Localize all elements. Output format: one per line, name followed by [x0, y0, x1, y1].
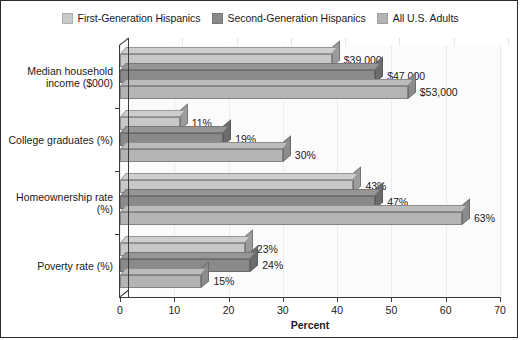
gridline-depth — [508, 38, 509, 45]
bar[interactable] — [120, 275, 201, 288]
y-axis-tick — [115, 234, 120, 235]
legend-item[interactable]: All U.S. Adults — [377, 12, 459, 24]
bar[interactable] — [120, 149, 283, 162]
category-label: Median household income ($000) — [1, 64, 113, 89]
bar[interactable] — [120, 86, 408, 99]
gridline — [446, 45, 447, 297]
bar-top-face — [120, 110, 186, 117]
bar-top-face — [120, 47, 338, 54]
bar-value-label: 24% — [262, 259, 283, 271]
plot-area: $39,000$47,000$53,00011%19%30%43%47%63%2… — [120, 45, 500, 297]
bar-value-label: 63% — [474, 212, 495, 224]
gridline-depth — [399, 38, 400, 45]
x-axis-line — [119, 297, 500, 298]
y-axis-tick — [115, 108, 120, 109]
bar-top-face — [120, 142, 289, 149]
bar-value-label: 30% — [295, 149, 316, 161]
category-label: Poverty rate (%) — [1, 259, 113, 272]
chart-container: First-Generation HispanicsSecond-Generat… — [0, 0, 518, 338]
x-axis-tick — [229, 297, 230, 302]
bar-top-face — [120, 173, 359, 180]
y-axis-back-line — [128, 38, 129, 297]
bar-top-face — [120, 63, 381, 70]
bar-top-face — [120, 189, 381, 196]
legend-item-label: Second-Generation Hispanics — [228, 12, 366, 24]
gridline-depth — [182, 38, 183, 45]
bar-front-face — [120, 149, 283, 162]
x-axis-title: Percent — [120, 319, 500, 331]
x-axis-tick — [337, 297, 338, 302]
bar-top-face — [120, 79, 414, 86]
bar[interactable] — [120, 212, 462, 225]
gridline-depth — [291, 38, 292, 45]
bar-value-label: $53,000 — [420, 86, 458, 98]
legend-item[interactable]: Second-Generation Hispanics — [212, 12, 366, 24]
bar-value-label: 23% — [257, 243, 278, 255]
bar-front-face — [120, 275, 201, 288]
x-axis-tick — [391, 297, 392, 302]
x-axis-tick-label: 50 — [386, 304, 398, 316]
bar-value-label: 15% — [213, 275, 234, 287]
bar-top-face — [120, 205, 468, 212]
gridline-depth — [345, 38, 346, 45]
legend-swatch-icon — [212, 13, 223, 24]
gridline-depth — [237, 38, 238, 45]
legend-item[interactable]: First-Generation Hispanics — [62, 12, 201, 24]
bar-front-face — [120, 212, 462, 225]
legend-item-label: All U.S. Adults — [393, 12, 459, 24]
x-axis-tick — [174, 297, 175, 302]
category-label: Homeownership rate (%) — [1, 190, 113, 215]
x-axis-tick-label: 60 — [440, 304, 452, 316]
bar-top-face — [120, 236, 251, 243]
y-axis-tick — [115, 171, 120, 172]
x-axis-tick-label: 40 — [331, 304, 343, 316]
x-axis-tick-label: 0 — [117, 304, 123, 316]
x-axis-tick-label: 10 — [168, 304, 180, 316]
x-axis-tick-label: 20 — [223, 304, 235, 316]
bar-top-face — [120, 126, 229, 133]
category-label: College graduates (%) — [1, 133, 113, 146]
gridline — [500, 45, 501, 297]
x-axis-tick — [120, 297, 121, 302]
bar-front-face — [120, 86, 408, 99]
x-axis-tick-label: 30 — [277, 304, 289, 316]
legend-swatch-icon — [377, 13, 388, 24]
bar-top-face — [120, 252, 256, 259]
x-axis-tick — [500, 297, 501, 302]
chart-legend: First-Generation HispanicsSecond-Generat… — [1, 12, 519, 24]
x-axis-tick — [446, 297, 447, 302]
x-axis-tick-label: 70 — [494, 304, 506, 316]
bar-top-face — [120, 268, 207, 275]
legend-swatch-icon — [62, 13, 73, 24]
gridline-depth — [454, 38, 455, 45]
legend-item-label: First-Generation Hispanics — [78, 12, 201, 24]
x-axis-tick — [283, 297, 284, 302]
